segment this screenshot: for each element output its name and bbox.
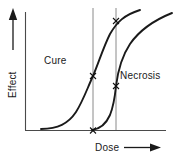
plot-canvas: Effect Dose Cure Necrosis — [0, 0, 177, 160]
necrosis-region-label: Necrosis — [120, 70, 161, 81]
x-axis-label: Dose — [95, 142, 119, 153]
up-arrow-icon — [9, 8, 17, 50]
dose-effect-figure: Effect Dose Cure Necrosis — [0, 0, 177, 160]
cure-region-label: Cure — [44, 55, 67, 66]
y-axis-label: Effect — [7, 71, 18, 98]
right-arrow-icon — [124, 144, 161, 152]
